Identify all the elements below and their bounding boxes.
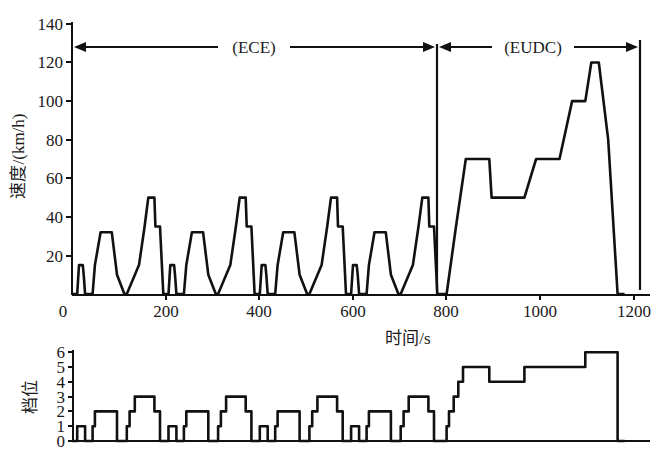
y-tick-label: 120 (38, 53, 64, 72)
ece-label: (ECE) (232, 38, 275, 57)
x-tick-label: 200 (153, 302, 179, 321)
gear-y-axis-title: 档位 (21, 380, 40, 414)
ece-span-arrow: (ECE) (74, 38, 435, 57)
gear-curve (72, 352, 625, 441)
eudc-label: (EUDC) (504, 38, 562, 57)
speed-curve (72, 63, 625, 295)
speed-y-axis-title: 速度/(km/h) (9, 114, 28, 199)
y-tick-label: 40 (46, 208, 63, 227)
y-tick-label: 100 (38, 92, 64, 111)
speed-chart: 20 40 60 80 100 120 140 0 200 400 600 80… (9, 15, 651, 348)
gear-tick-label: 6 (57, 343, 66, 362)
y-tick-label: 20 (46, 247, 63, 266)
y-tick-label: 140 (38, 15, 64, 34)
x-tick-label: 400 (246, 302, 272, 321)
gear-y-ticks: 0 1 2 3 4 5 6 (57, 343, 74, 451)
x-tick-label: 0 (59, 302, 68, 321)
speed-x-ticks: 0 200 400 600 800 1000 1200 (59, 295, 651, 321)
y-tick-label: 60 (46, 169, 63, 188)
nedc-chart: 20 40 60 80 100 120 140 0 200 400 600 80… (0, 0, 667, 472)
speed-x-axis-title: 时间/s (385, 329, 430, 348)
y-tick-label: 80 (46, 131, 63, 150)
x-tick-label: 1000 (523, 302, 557, 321)
eudc-span-arrow: (EUDC) (439, 38, 638, 57)
gear-chart: 0 1 2 3 4 5 6 档位 (21, 343, 650, 451)
x-tick-label: 1200 (617, 302, 651, 321)
x-tick-label: 800 (433, 302, 459, 321)
x-tick-label: 600 (340, 302, 366, 321)
speed-y-ticks: 20 40 60 80 100 120 140 (38, 15, 73, 266)
